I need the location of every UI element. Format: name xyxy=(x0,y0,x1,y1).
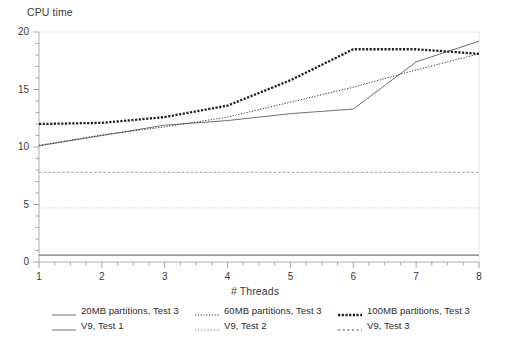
x-tick-label: 5 xyxy=(278,271,302,282)
x-tick-label: 2 xyxy=(90,271,114,282)
legend-row: V9, Test 1V9, Test 2V9, Test 3 xyxy=(52,318,482,333)
legend-swatch-solid xyxy=(52,310,76,320)
legend-line-sample-icon xyxy=(195,306,219,316)
cpu-time-chart: CPU time # Threads 05101520 12345678 20M… xyxy=(0,0,510,343)
legend-line-sample-icon xyxy=(52,306,76,316)
y-tick-label: 10 xyxy=(7,141,29,152)
legend-label: 100MB partitions, Test 3 xyxy=(367,305,470,316)
legend-row: 20MB partitions, Test 360MB partitions, … xyxy=(52,303,482,318)
x-tick-label: 7 xyxy=(404,271,428,282)
legend-label: V9, Test 3 xyxy=(367,320,410,331)
x-tick-label: 6 xyxy=(341,271,365,282)
legend-swatch-fine-dotted xyxy=(195,310,219,320)
legend-swatch-dashed-reference xyxy=(338,325,362,335)
legend-item[interactable]: V9, Test 3 xyxy=(338,320,482,331)
legend-swatch-dotted-reference xyxy=(195,325,219,335)
legend-line-sample-icon xyxy=(195,321,219,331)
plot-area xyxy=(0,0,510,343)
legend-label: 60MB partitions, Test 3 xyxy=(224,305,322,316)
x-tick-label: 8 xyxy=(467,271,491,282)
legend-item[interactable]: V9, Test 1 xyxy=(52,320,195,331)
legend-line-sample-icon xyxy=(338,306,362,316)
y-tick-label: 5 xyxy=(7,199,29,210)
legend-item[interactable]: 60MB partitions, Test 3 xyxy=(195,305,338,316)
legend-item[interactable]: 20MB partitions, Test 3 xyxy=(52,305,195,316)
y-tick-label: 20 xyxy=(7,26,29,37)
legend-label: 20MB partitions, Test 3 xyxy=(81,305,179,316)
series-line-3 xyxy=(39,49,479,124)
y-tick-label: 0 xyxy=(7,256,29,267)
series-line-2 xyxy=(39,54,479,145)
legend-line-sample-icon xyxy=(338,321,362,331)
y-tick-label: 15 xyxy=(7,84,29,95)
legend-swatch-solid xyxy=(52,325,76,335)
legend-item[interactable]: 100MB partitions, Test 3 xyxy=(338,305,482,316)
legend-label: V9, Test 1 xyxy=(81,320,124,331)
x-tick-label: 3 xyxy=(153,271,177,282)
chart-legend: 20MB partitions, Test 360MB partitions, … xyxy=(52,303,482,339)
legend-swatch-thick-dotted xyxy=(338,310,362,320)
legend-item[interactable]: V9, Test 2 xyxy=(195,320,338,331)
legend-label: V9, Test 2 xyxy=(224,320,267,331)
legend-line-sample-icon xyxy=(52,321,76,331)
x-tick-label: 1 xyxy=(27,271,51,282)
x-tick-label: 4 xyxy=(216,271,240,282)
